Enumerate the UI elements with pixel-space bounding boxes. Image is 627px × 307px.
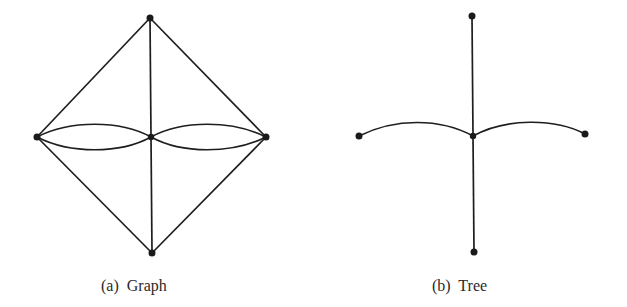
node-top — [147, 15, 154, 22]
edge-top-right — [150, 18, 266, 137]
node-right — [263, 134, 270, 141]
edge-top-center — [472, 16, 473, 136]
node-center — [148, 134, 154, 140]
caption-graph: (a) Graph — [101, 277, 167, 295]
node-bottom — [149, 250, 156, 257]
edge-left-center — [359, 123, 473, 137]
graph-figure — [34, 15, 270, 257]
edge-center-right-upper — [151, 124, 266, 137]
node-left — [34, 134, 41, 141]
node-top — [469, 13, 476, 20]
edge-center-right-lower — [151, 137, 266, 150]
node-bottom — [471, 249, 478, 256]
node-left — [356, 133, 363, 140]
edge-left-center-upper — [37, 124, 151, 137]
edge-top-left — [37, 18, 150, 137]
figure-canvas — [0, 0, 627, 307]
node-right — [582, 131, 589, 138]
edge-left-center-lower — [37, 137, 151, 150]
edge-top-center — [150, 18, 151, 137]
edge-center-right — [473, 122, 585, 136]
edge-bottom-right — [152, 137, 266, 253]
edge-center-bottom — [473, 136, 474, 252]
caption-tree: (b) Tree — [432, 277, 487, 295]
edge-bottom-left — [37, 137, 152, 253]
tree-figure — [356, 13, 589, 256]
node-center — [470, 133, 476, 139]
edge-bottom-center — [151, 137, 152, 253]
